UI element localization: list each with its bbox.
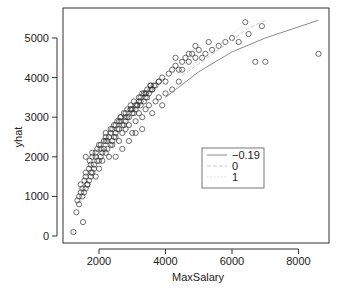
y-axis-label: yhat (12, 127, 24, 148)
data-point (133, 130, 138, 135)
data-point (193, 55, 198, 60)
legend-label: 1 (232, 171, 238, 183)
x-tick-label: 8000 (286, 255, 310, 267)
data-point (180, 67, 185, 72)
data-point (156, 95, 161, 100)
legend: −0.1901 (202, 148, 264, 188)
data-point (126, 123, 131, 128)
data-point (90, 150, 95, 155)
data-point (243, 20, 248, 25)
fit-line (166, 20, 319, 97)
data-point (236, 39, 241, 44)
y-tick-label: 1000 (25, 190, 49, 202)
data-point (83, 170, 88, 175)
data-point (96, 166, 101, 171)
y-tick-label: 2000 (25, 151, 49, 163)
x-axis-label: MaxSalary (172, 271, 224, 283)
y-tick-label: 3000 (25, 111, 49, 123)
x-tick-label: 2000 (87, 255, 111, 267)
x-tick-label: 4000 (153, 255, 177, 267)
data-point (163, 91, 168, 96)
data-point (186, 59, 191, 64)
data-point (186, 51, 191, 56)
y-tick-label: 0 (43, 230, 49, 242)
data-point (206, 39, 211, 44)
data-point (120, 146, 125, 151)
data-point (146, 103, 151, 108)
data-point (253, 59, 258, 64)
x-tick-label: 6000 (220, 255, 244, 267)
data-point (176, 79, 181, 84)
data-point (71, 229, 76, 234)
data-point (140, 127, 145, 132)
data-point (150, 111, 155, 116)
data-point (83, 154, 88, 159)
data-point (116, 138, 121, 143)
fit-lines (166, 20, 319, 97)
data-point (140, 115, 145, 120)
y-tick-label: 5000 (25, 32, 49, 44)
scatter-chart: 2000400060008000 010002000300040005000 M… (0, 0, 338, 293)
data-point (263, 59, 268, 64)
y-axis: 010002000300040005000 (25, 32, 57, 242)
data-points (71, 20, 321, 235)
data-point (246, 31, 251, 36)
y-tick-label: 4000 (25, 72, 49, 84)
data-point (133, 119, 138, 124)
data-point (106, 154, 111, 159)
fit-line (182, 20, 265, 75)
data-point (74, 210, 79, 215)
data-point (259, 24, 264, 29)
data-point (80, 220, 85, 225)
data-point (93, 174, 98, 179)
data-point (173, 55, 178, 60)
data-point (193, 43, 198, 48)
data-point (160, 103, 165, 108)
data-point (113, 154, 118, 159)
data-point (316, 51, 321, 56)
data-point (156, 79, 161, 84)
data-point (163, 79, 168, 84)
data-point (126, 138, 131, 143)
x-axis: 2000400060008000 (87, 249, 311, 267)
fit-line (182, 26, 242, 74)
data-point (216, 43, 221, 48)
